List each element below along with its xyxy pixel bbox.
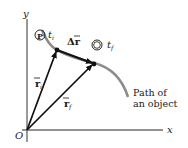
vector-r-initial <box>27 52 56 130</box>
origin-label: O <box>15 130 23 141</box>
vector-displacement <box>57 50 92 63</box>
x-axis-label: x <box>167 124 173 135</box>
svg-text:f: f <box>68 103 73 111</box>
svg-text:i: i <box>52 34 54 41</box>
svg-text:i: i <box>40 83 42 90</box>
svg-text:Δr: Δr <box>67 36 81 47</box>
label-r-initial: r i <box>34 78 42 90</box>
point-q-label: t f <box>92 39 115 52</box>
label-delta-r: Δr <box>67 36 81 47</box>
path-label-line1: Path of <box>133 87 168 98</box>
vector-r-final <box>27 65 92 130</box>
point-p-dot <box>55 48 60 53</box>
object-path-curve <box>42 30 128 97</box>
svg-text:P: P <box>37 31 43 41</box>
point-q-dot <box>92 62 97 67</box>
y-axis-label: y <box>22 8 29 19</box>
svg-text:f: f <box>110 44 115 52</box>
position-vector-diagram: y x O P t i t f Δr r i r f Path of an ob… <box>0 0 188 148</box>
label-r-final: r f <box>63 98 73 111</box>
path-label-line2: an object <box>133 98 177 109</box>
